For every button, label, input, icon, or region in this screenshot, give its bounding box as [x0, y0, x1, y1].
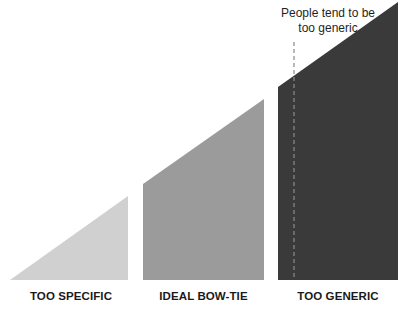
too-generic-shape	[278, 2, 398, 280]
annotation-line-2: too generic	[236, 21, 406, 36]
ideal-bow-tie-shape	[143, 99, 264, 280]
annotation-text: People tend to be too generic	[236, 6, 406, 36]
annotation-line-1: People tend to be	[236, 6, 406, 21]
label-ideal-bow-tie: IDEAL BOW-TIE	[143, 290, 264, 302]
label-too-specific: TOO SPECIFIC	[14, 290, 128, 302]
label-too-generic: TOO GENERIC	[278, 290, 398, 302]
bow-tie-diagram	[0, 0, 406, 314]
too-specific-shape	[10, 196, 128, 280]
